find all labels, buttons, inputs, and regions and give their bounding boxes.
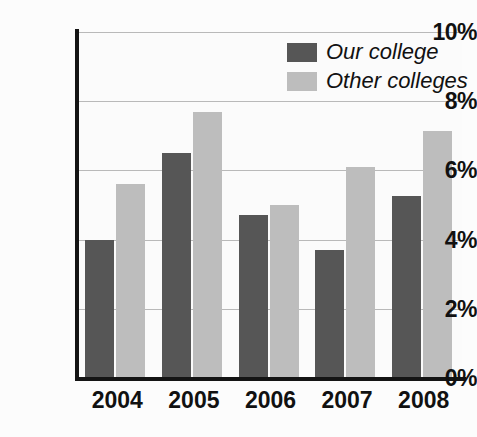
chart-legend: Our collegeOther colleges [287, 39, 468, 94]
x-tick-label-2008: 2008 [386, 389, 462, 412]
legend-swatch-other-colleges [287, 72, 317, 91]
bar-2007-other-colleges [346, 167, 375, 378]
bar-chart-figure: 10%8%6%4%2%0% 20042005200620072008 Our c… [0, 0, 477, 437]
legend-label-our-college: Our college [326, 41, 439, 63]
x-tick-label-2004: 2004 [79, 389, 155, 412]
bar-2006-other-colleges [270, 205, 299, 378]
bar-2004-our-college [85, 240, 114, 378]
legend-item-other-colleges: Other colleges [287, 68, 468, 94]
bar-2004-other-colleges [116, 184, 145, 378]
gridline-10% [79, 32, 462, 33]
bar-2005-other-colleges [193, 112, 222, 378]
x-tick-label-2005: 2005 [156, 389, 232, 412]
gridline-6% [79, 170, 462, 171]
legend-item-our-college: Our college [287, 39, 468, 65]
y-axis-line [75, 29, 79, 381]
bar-2007-our-college [315, 250, 344, 378]
bar-2006-our-college [239, 215, 268, 378]
y-tick-label-4%: 4% [409, 229, 477, 252]
legend-swatch-our-college [287, 43, 317, 62]
y-tick-label-6%: 6% [409, 159, 477, 182]
legend-label-other-colleges: Other colleges [326, 70, 468, 92]
bar-2005-our-college [162, 153, 191, 378]
gridline-8% [79, 101, 462, 102]
y-tick-label-2%: 2% [409, 298, 477, 321]
bar-2008-our-college [392, 196, 421, 378]
x-tick-label-2007: 2007 [309, 389, 385, 412]
x-tick-label-2006: 2006 [233, 389, 309, 412]
x-axis-line [75, 377, 466, 381]
